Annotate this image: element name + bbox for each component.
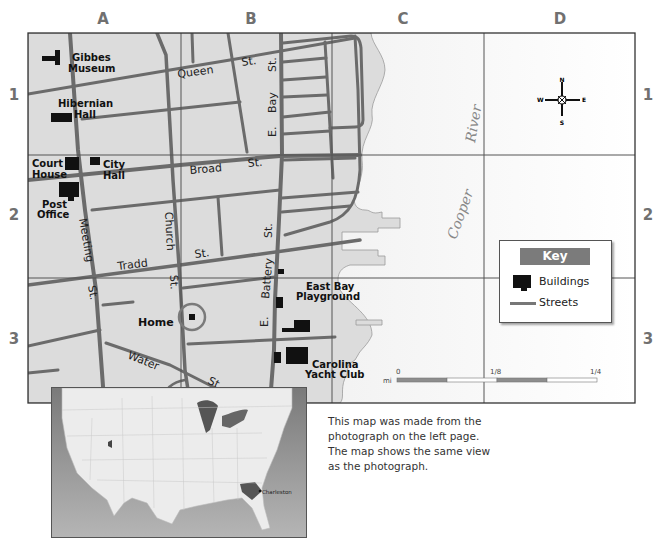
- scale-tick-0: 0: [396, 368, 400, 376]
- map-body: Gibbes Museum Hibernian Hall Court House…: [28, 33, 635, 403]
- scale-tick-1-4: 1/4: [590, 368, 602, 376]
- map-key: Key Buildings Streets: [499, 240, 612, 323]
- us-locator-map: Charleston: [51, 387, 307, 538]
- label-battery-st: St.: [262, 223, 275, 238]
- compass-w: W: [537, 96, 544, 103]
- compass-e: E: [582, 96, 586, 103]
- scale-unit: mi: [383, 377, 392, 385]
- label-hibernian-line1: Hibernian: [58, 98, 113, 109]
- label-church: Church: [162, 211, 177, 251]
- label-post-office-line2: Office: [37, 209, 70, 220]
- charleston-dot: [259, 490, 262, 493]
- label-east-bay-playground-line2: Playground: [296, 291, 360, 302]
- label-home: Home: [138, 316, 174, 329]
- label-carolina-yacht-club-line2: Yacht Club: [304, 369, 364, 380]
- caption-line-1: This map was made from the: [328, 414, 528, 429]
- label-court-house-line2: House: [32, 169, 67, 180]
- hibernian-hall-building: [51, 113, 72, 122]
- label-gibbes-line1: Gibbes: [72, 52, 111, 63]
- building-b3-small-2: [274, 352, 281, 363]
- label-church-st: St.: [167, 274, 181, 289]
- key-item-streets: Streets: [539, 296, 578, 309]
- scale-tick-1-8: 1/8: [490, 368, 501, 376]
- label-meeting-st: St.: [85, 284, 100, 301]
- home-building: [189, 314, 195, 320]
- key-item-buildings: Buildings: [539, 275, 589, 288]
- street-symbol-icon: [510, 302, 536, 305]
- label-court-house-line1: Court: [32, 158, 63, 169]
- label-gibbes-line2: Museum: [68, 63, 115, 74]
- label-charleston: Charleston: [262, 489, 292, 495]
- building-b3-small: [278, 269, 284, 274]
- label-east-bay-st: St.: [266, 57, 279, 72]
- label-tradd-st: St.: [194, 246, 210, 261]
- label-east-bay: Bay: [266, 92, 279, 113]
- key-title: Key: [520, 248, 590, 265]
- label-battery-e: E.: [258, 317, 271, 327]
- compass-n: N: [559, 76, 564, 83]
- label-east-bay-e: E.: [266, 127, 279, 137]
- court-house-building: [65, 157, 79, 170]
- us-outline-map: Charleston: [52, 388, 306, 537]
- label-city-hall-line1: City: [103, 159, 126, 170]
- label-city-hall-line2: Hall: [103, 170, 125, 181]
- building-b3-tall: [276, 297, 283, 308]
- label-queen-st: St.: [241, 54, 257, 69]
- compass-s: S: [560, 119, 564, 126]
- pier: [356, 320, 382, 325]
- city-hall-building: [90, 157, 100, 165]
- carolina-yacht-club-building: [286, 347, 308, 364]
- label-broad-st: St.: [247, 156, 263, 170]
- caption-line-3: The map shows the same view: [328, 444, 528, 459]
- caption-line-2: photograph on the left page.: [328, 429, 528, 444]
- caption-line-4: as the photograph.: [328, 459, 528, 474]
- label-hibernian-line2: Hall: [74, 109, 96, 120]
- building-symbol-icon: [513, 275, 533, 291]
- map-caption: This map was made from the photograph on…: [328, 414, 528, 474]
